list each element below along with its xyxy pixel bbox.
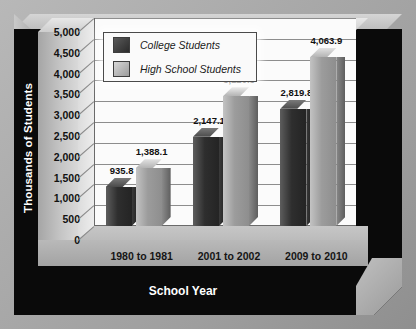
y-tick-label: 1,000	[54, 192, 80, 204]
bar-top-face	[310, 48, 336, 57]
bar-front-face	[193, 137, 219, 226]
x-tick-label: 2001 to 2002	[198, 250, 260, 262]
legend-entry-college: College Students	[104, 33, 256, 57]
y-tick-label: 3,500	[54, 88, 80, 100]
bar-top-face	[193, 128, 219, 137]
bar-college	[193, 137, 219, 226]
y-axis-title: Thousands of Students	[22, 48, 34, 248]
legend-entry-high-school: High School Students	[104, 57, 256, 81]
bar-high-school	[136, 168, 162, 226]
y-tick-label: 1,500	[54, 172, 80, 184]
bar-value-label: 2,147.1	[193, 115, 225, 126]
bar-college	[106, 187, 132, 226]
bar-top-face	[280, 100, 306, 109]
bar-high-school	[223, 96, 249, 226]
bar-value-label: 2,819.8	[280, 87, 312, 98]
bar-side-face	[249, 96, 258, 226]
y-tick-label: 4,000	[54, 68, 80, 80]
bar-front-face	[223, 96, 249, 226]
bar-top-face	[136, 159, 162, 168]
bar-value-label: 935.8	[110, 165, 134, 176]
legend-label-college: College Students	[140, 39, 220, 51]
light-swatch-icon	[113, 61, 130, 77]
x-tick-label: 2009 to 2010	[285, 250, 347, 262]
bar-value-label: 4,063.9	[310, 35, 342, 46]
y-tick-label: 3,000	[54, 109, 80, 121]
legend-label-high-school: High School Students	[140, 63, 241, 75]
chart-figure: Thousands of Students School Year 5,0004…	[0, 0, 416, 329]
bar-side-face	[162, 168, 171, 226]
chart-legend: College Students High School Students	[103, 32, 257, 82]
bar-top-face	[106, 178, 132, 187]
bar-top-face	[223, 87, 249, 96]
y-tick-label: 2,000	[54, 151, 80, 163]
x-axis-labels: 1980 to 19812001 to 20022009 to 2010	[38, 250, 368, 268]
bar-front-face	[310, 57, 336, 226]
bar-value-label: 1,388.1	[136, 146, 168, 157]
bar-side-face	[336, 57, 345, 226]
y-tick-label: 2,500	[54, 130, 80, 142]
x-axis-title: School Year	[0, 284, 366, 298]
bar-front-face	[136, 168, 162, 226]
x-tick-label: 1980 to 1981	[110, 250, 172, 262]
bar-front-face	[280, 109, 306, 226]
bar-front-face	[106, 187, 132, 226]
y-tick-label: 4,500	[54, 47, 80, 59]
dark-swatch-icon	[113, 37, 130, 53]
bar-high-school	[310, 57, 336, 226]
y-tick-label: 5,000	[54, 26, 80, 38]
bar-college	[280, 109, 306, 226]
